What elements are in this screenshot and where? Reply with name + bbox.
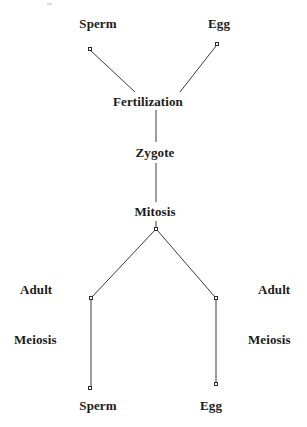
- edge-branch-to-adult_right: [157, 230, 215, 297]
- label-sperm-top: Sperm: [79, 17, 116, 31]
- node-dot-egg-top: [215, 42, 219, 46]
- label-sperm-bottom: Sperm: [79, 399, 116, 413]
- life-cycle-diagram: Sperm Egg Fertilization Zygote Mitosis A…: [0, 0, 307, 427]
- label-mitosis: Mitosis: [134, 205, 175, 219]
- node-dot-sperm-top: [88, 47, 92, 51]
- edge-branch-to-adult_left: [92, 230, 155, 297]
- scan-artifact-speck: [47, 3, 52, 5]
- label-zygote: Zygote: [136, 146, 175, 160]
- node-dot-sperm-bottom: [88, 386, 92, 390]
- label-adult-left: Adult: [20, 283, 52, 297]
- label-adult-right: Adult: [258, 283, 290, 297]
- node-dot-egg-bottom: [214, 382, 218, 386]
- edge-egg_top-to-fertilization: [180, 46, 216, 92]
- edge-sperm_top-to-fertilization: [90, 50, 135, 92]
- label-egg-top: Egg: [208, 17, 230, 31]
- label-fertilization: Fertilization: [113, 95, 183, 109]
- node-dot-mitosis-branch: [154, 227, 158, 231]
- label-meiosis-right: Meiosis: [248, 333, 291, 347]
- label-meiosis-left: Meiosis: [14, 333, 57, 347]
- label-egg-bottom: Egg: [200, 399, 222, 413]
- node-dot-adult-right: [214, 296, 218, 300]
- node-dot-adult-left: [89, 296, 93, 300]
